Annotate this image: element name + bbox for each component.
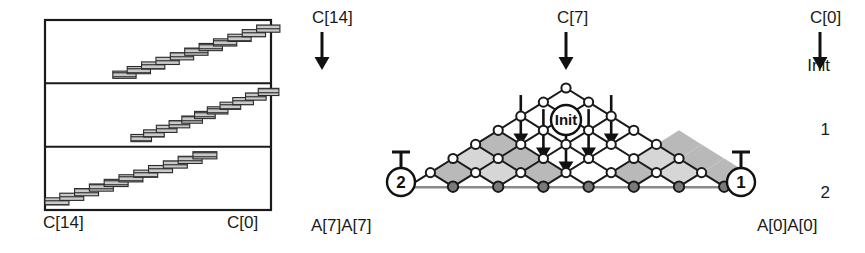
marker-label-2: 2: [396, 173, 405, 192]
marker-label-init: Init: [555, 111, 578, 128]
top-label-1: C[7]: [557, 8, 588, 28]
top-label-2: C[0]: [810, 8, 841, 28]
input-arrows: [315, 32, 828, 70]
bottom-label-1: A[0]A[0]: [757, 216, 817, 236]
bottom-label-0: A[7]A[7]: [311, 216, 371, 236]
top-label-0: C[14]: [312, 8, 353, 28]
figure-root: Init12 C[14] C[0] Init21 C[14]C[7]C[0] A…: [0, 0, 865, 253]
marker-label-1: 1: [736, 173, 745, 192]
axis-label-right: C[0]: [227, 213, 258, 233]
axis-label-left: C[14]: [43, 213, 84, 233]
